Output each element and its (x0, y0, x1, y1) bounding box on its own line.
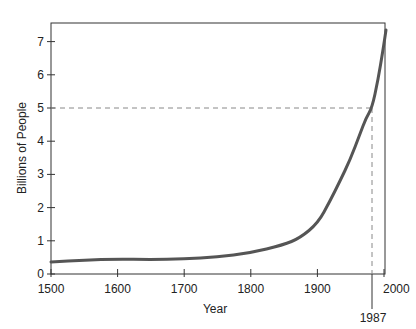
y-axis-title: Billions of People (15, 102, 29, 194)
x-tick-label: 1700 (171, 282, 198, 296)
y-tick-label: 6 (37, 68, 44, 82)
population-curve (51, 30, 386, 262)
x-tick-label: 1600 (104, 282, 131, 296)
y-axis: 01234567 (37, 35, 55, 281)
plot-frame (51, 23, 385, 274)
y-tick-label: 4 (37, 134, 44, 148)
y-tick-label: 0 (37, 267, 44, 281)
x-tick-label: 1800 (237, 282, 264, 296)
marker-1987-label: 1987 (360, 311, 387, 325)
y-tick-label: 1 (37, 234, 44, 248)
population-chart: 01234567 150016001700180019002000 Year B… (0, 0, 416, 329)
x-tick-label: 1500 (38, 282, 65, 296)
y-tick-label: 3 (37, 167, 44, 181)
x-axis-title: Year (203, 302, 227, 316)
y-tick-label: 5 (37, 101, 44, 115)
x-tick-label: 1900 (304, 282, 331, 296)
x-axis: 150016001700180019002000 (38, 269, 410, 296)
y-tick-label: 2 (37, 201, 44, 215)
reference-lines (51, 108, 372, 309)
x-tick-label: 2000 (383, 282, 410, 296)
y-tick-label: 7 (37, 35, 44, 49)
